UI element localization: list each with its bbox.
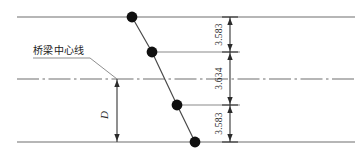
dim-arrow-middle-down bbox=[227, 53, 232, 60]
span-node-3 bbox=[172, 100, 183, 111]
span-node-1 bbox=[127, 12, 138, 23]
dim-arrow-middle-up bbox=[227, 97, 232, 104]
span-node-4 bbox=[190, 137, 201, 148]
distance-symbol-label: D bbox=[98, 111, 110, 120]
dim-arrow-bottom-down bbox=[227, 106, 232, 113]
dim-arrow-top-down bbox=[227, 18, 232, 25]
bridge-centerline-diagram: D 3.583 3.634 3.583 桥梁中心线 bbox=[0, 0, 362, 159]
distance-arrow-top bbox=[114, 80, 119, 87]
dim-value-middle: 3.634 bbox=[214, 67, 224, 89]
dim-arrow-bottom-up bbox=[227, 134, 232, 141]
span-node-2 bbox=[147, 47, 158, 58]
distance-arrow-bottom bbox=[114, 134, 119, 141]
leader-diagonal bbox=[90, 58, 117, 79]
dim-arrow-top-up bbox=[227, 44, 232, 51]
bridge-centerline-annotation: 桥梁中心线 bbox=[33, 46, 85, 56]
dim-value-bottom: 3.583 bbox=[214, 112, 224, 134]
diagram-canvas: D 3.583 3.634 3.583 bbox=[0, 0, 362, 159]
dim-value-top: 3.583 bbox=[214, 23, 224, 45]
